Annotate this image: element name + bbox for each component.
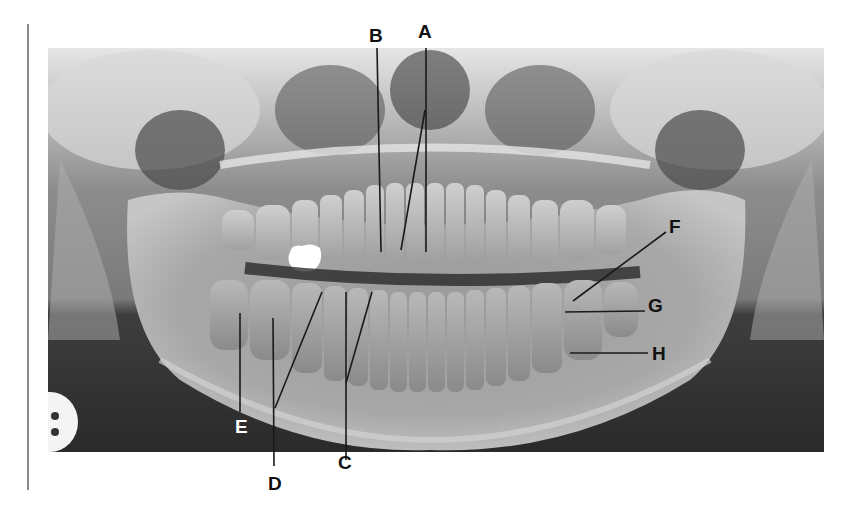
panoramic-xray-figure: A B C D E F G H [0,0,857,515]
label-g: G [648,295,663,316]
bite-block [22,392,78,452]
label-h: H [652,343,666,364]
label-d: D [268,473,282,494]
label-f: F [669,216,681,237]
label-a: A [418,21,432,42]
label-e: E [235,416,248,437]
label-b: B [369,25,383,46]
label-c: C [338,452,352,473]
